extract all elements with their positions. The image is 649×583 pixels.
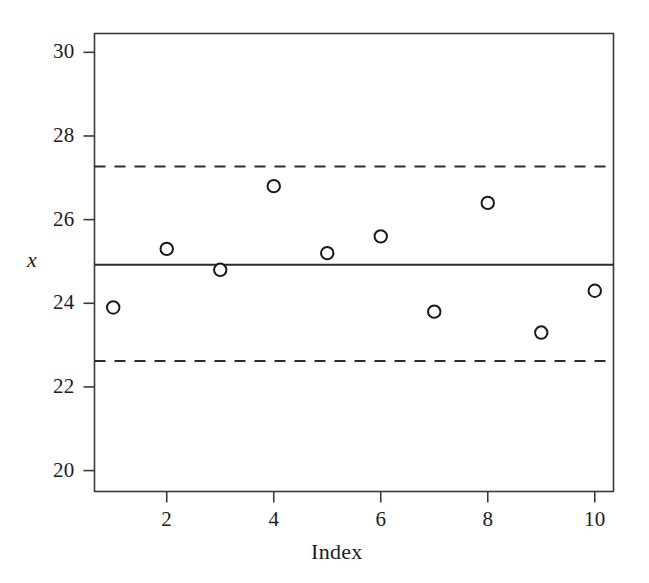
control-chart: 202224262830 246810 x Index	[0, 0, 649, 583]
plot-frame	[95, 34, 614, 492]
y-tick-label: 26	[53, 207, 74, 232]
y-tick-label: 20	[53, 458, 74, 483]
y-axis-title: x	[27, 247, 37, 273]
x-axis-ticks	[167, 492, 595, 503]
data-point-marker	[107, 301, 119, 313]
data-point-marker	[428, 305, 440, 317]
x-tick-label: 2	[161, 507, 172, 532]
y-tick-label: 22	[53, 374, 74, 399]
data-point-marker	[589, 285, 601, 297]
y-axis-ticks	[84, 52, 95, 470]
data-point-marker	[214, 264, 226, 276]
data-point-marker	[375, 230, 387, 242]
data-point-marker	[482, 197, 494, 209]
x-tick-label: 4	[268, 507, 279, 532]
data-point-marker	[268, 180, 280, 192]
x-axis-title: Index	[311, 539, 363, 565]
x-tick-label: 8	[482, 507, 493, 532]
x-tick-label: 6	[375, 507, 386, 532]
y-tick-label: 28	[53, 123, 74, 148]
data-point-marker	[161, 243, 173, 255]
y-tick-label: 24	[53, 290, 74, 315]
data-point-marker	[321, 247, 333, 259]
x-tick-label: 10	[584, 507, 605, 532]
plot-area-svg	[0, 0, 649, 583]
y-tick-label: 30	[53, 39, 74, 64]
data-point-marker	[535, 326, 547, 338]
